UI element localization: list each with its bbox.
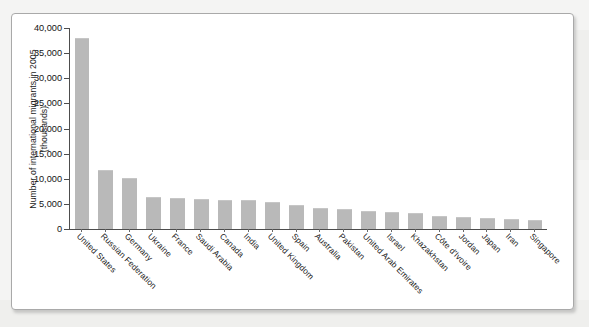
figure-frame: Number of international migrants in 2005… <box>11 13 574 310</box>
bar <box>170 198 185 229</box>
y-axis-tick-mark <box>64 179 69 180</box>
bar <box>241 200 256 229</box>
scan-artifact <box>575 30 589 160</box>
x-axis-line <box>69 229 547 230</box>
bar <box>528 220 543 229</box>
y-axis-tick-label: 25,000 <box>34 98 62 108</box>
bar <box>194 199 209 229</box>
y-axis-tick-mark <box>64 53 69 54</box>
x-axis-category-label: Singapore <box>528 231 563 266</box>
y-axis-tick-label: 20,000 <box>34 124 62 134</box>
y-axis-tick-mark <box>64 78 69 79</box>
y-axis-tick-label: 30,000 <box>34 73 62 83</box>
scanned-page: Number of international migrants in 2005… <box>0 0 589 327</box>
bar <box>122 178 137 229</box>
y-axis-tick-label: 15,000 <box>34 149 62 159</box>
bar <box>289 205 304 229</box>
y-axis-tick-label: 35,000 <box>34 48 62 58</box>
y-axis-tick-label: 5,000 <box>39 199 62 209</box>
y-axis-tick-mark <box>64 129 69 130</box>
x-axis-labels: United StatesRussian FederationGermanyUk… <box>69 231 569 310</box>
bar <box>98 170 113 229</box>
bar-chart: Number of international migrants in 2005… <box>12 14 574 310</box>
bar <box>265 202 280 229</box>
y-axis-tick-mark <box>64 204 69 205</box>
y-axis-tick-mark <box>64 154 69 155</box>
bar <box>218 200 233 229</box>
bar <box>337 209 352 229</box>
y-axis-tick-mark <box>64 229 69 230</box>
bar <box>408 213 423 229</box>
bar <box>146 197 161 229</box>
bar <box>313 208 328 229</box>
y-axis-tick-label: 0 <box>57 224 62 234</box>
bar <box>75 38 90 229</box>
x-axis-category-label: France <box>170 231 196 257</box>
plot-area: 05,00010,00015,00020,00025,00030,00035,0… <box>69 28 547 229</box>
x-axis-category-label: Israel <box>385 231 407 253</box>
bar <box>456 217 471 229</box>
bar <box>361 211 376 229</box>
y-axis-tick-mark <box>64 28 69 29</box>
y-axis-tick-label: 40,000 <box>34 23 62 33</box>
y-axis-tick-label: 10,000 <box>34 174 62 184</box>
bar <box>504 219 519 229</box>
bar <box>480 218 495 229</box>
x-axis-category-label: Japan <box>480 231 504 255</box>
bar-series <box>70 28 547 229</box>
x-axis-category-label: India <box>242 231 262 251</box>
y-axis-tick-mark <box>64 103 69 104</box>
x-axis-category-label: Iran <box>504 231 522 249</box>
bar <box>432 216 447 229</box>
bar <box>385 212 400 229</box>
